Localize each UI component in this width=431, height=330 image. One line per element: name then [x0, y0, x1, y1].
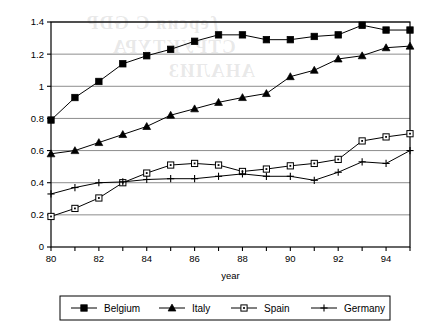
chart-figure: ƒерсия C GDP СТРУКТУРА АНАЛИЗ 00.20.40.6…	[0, 0, 431, 330]
x-axis-tick-label: 92	[333, 253, 344, 264]
x-axis-tick-label: 82	[94, 253, 105, 264]
legend: BelgiumItalySpainGermany	[60, 296, 390, 320]
x-axis-tick-labels: 8082848688909294	[46, 253, 392, 264]
x-axis-tick-label: 80	[46, 253, 57, 264]
y-axis-tick-label: 1.2	[31, 49, 44, 60]
x-axis-tick-label: 84	[141, 253, 152, 264]
legend-marker-filled-square-icon	[81, 305, 87, 311]
x-axis-tick-label: 88	[237, 253, 248, 264]
x-axis-ticks	[51, 247, 410, 251]
y-axis-tick-label: 0	[39, 241, 44, 252]
x-axis-tick-label: 94	[381, 253, 392, 264]
legend-label: Spain	[264, 303, 290, 314]
x-axis-tick-label: 90	[285, 253, 296, 264]
data-series-layer	[47, 22, 414, 220]
y-axis-tick-label: 1	[39, 81, 44, 92]
y-axis-tick-label: 0.8	[31, 113, 44, 124]
series-germany	[47, 147, 413, 198]
plot-frame	[51, 22, 410, 247]
legend-label: Belgium	[104, 303, 140, 314]
legend-label: Italy	[192, 303, 210, 314]
series-belgium	[48, 22, 413, 123]
y-axis-tick-label: 0.6	[31, 145, 44, 156]
y-axis-tick-label: 0.2	[31, 209, 44, 220]
legend-marker-open-square-dot-icon	[241, 305, 247, 311]
y-axis-tick-label: 0.4	[31, 177, 44, 188]
x-axis-title: year	[221, 270, 239, 281]
legend-label: Germany	[344, 303, 385, 314]
line-chart: 00.20.40.60.811.21.4 8082848688909294 ye…	[0, 0, 431, 330]
y-axis-tick-labels: 00.20.40.60.811.21.4	[31, 16, 44, 252]
x-axis-tick-label: 86	[189, 253, 200, 264]
gridlines	[51, 22, 410, 215]
y-axis-tick-label: 1.4	[31, 16, 44, 27]
